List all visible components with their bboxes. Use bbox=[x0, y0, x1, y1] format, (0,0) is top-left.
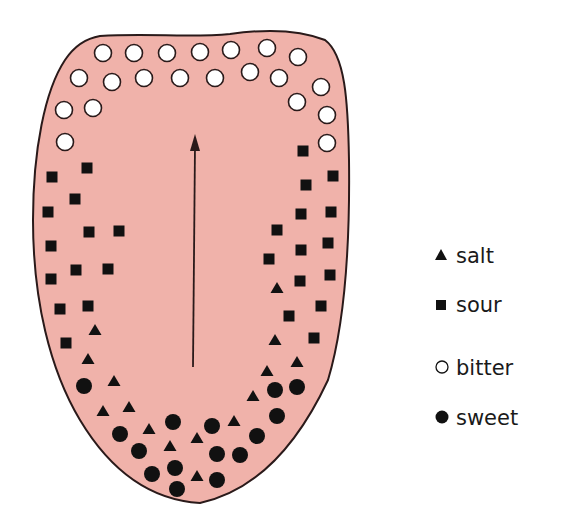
sweet-marker bbox=[76, 378, 92, 394]
legend-label-bitter: bitter bbox=[456, 356, 514, 380]
sour-marker bbox=[326, 207, 337, 218]
bitter-marker bbox=[271, 70, 288, 87]
sweet-marker bbox=[165, 414, 181, 430]
sour-marker bbox=[114, 226, 125, 237]
sour-marker bbox=[103, 264, 114, 275]
bitter-marker bbox=[57, 134, 74, 151]
bitter-marker bbox=[207, 70, 224, 87]
sour-marker bbox=[272, 225, 283, 236]
sour-marker bbox=[84, 227, 95, 238]
sour-marker bbox=[43, 207, 54, 218]
legend-item-sweet: sweet bbox=[436, 406, 519, 430]
sweet-marker bbox=[209, 446, 225, 462]
sour-marker bbox=[264, 254, 275, 265]
sour-marker bbox=[296, 245, 307, 256]
sweet-marker bbox=[204, 418, 220, 434]
sour-marker bbox=[47, 172, 58, 183]
sour-marker bbox=[298, 146, 309, 157]
bitter-marker bbox=[104, 74, 121, 91]
legend-item-salt: salt bbox=[435, 244, 494, 268]
sour-marker bbox=[46, 274, 57, 285]
sour-marker bbox=[296, 209, 307, 220]
legend-label-sweet: sweet bbox=[456, 406, 518, 430]
legend-item-sour: sour bbox=[436, 293, 502, 317]
bitter-marker bbox=[136, 70, 153, 87]
sweet-marker bbox=[112, 426, 128, 442]
sweet-marker bbox=[209, 472, 225, 488]
sweet-marker bbox=[131, 443, 147, 459]
bitter-marker bbox=[126, 45, 143, 62]
sour-marker bbox=[323, 238, 334, 249]
sour-marker bbox=[295, 276, 306, 287]
sweet-marker bbox=[144, 466, 160, 482]
bitter-marker bbox=[95, 45, 112, 62]
sweet-marker bbox=[267, 382, 283, 398]
bitter-marker bbox=[313, 79, 330, 96]
sour-marker bbox=[83, 301, 94, 312]
sour-marker bbox=[328, 171, 339, 182]
sweet-marker bbox=[232, 447, 248, 463]
bitter-marker bbox=[289, 94, 306, 111]
sour-square-icon bbox=[436, 300, 446, 310]
sour-marker bbox=[46, 241, 57, 252]
sour-marker bbox=[70, 194, 81, 205]
sweet-marker bbox=[167, 460, 183, 476]
sweet-marker bbox=[269, 408, 285, 424]
tongue-map-diagram: salt sour bitter sweet bbox=[0, 0, 563, 529]
bitter-marker bbox=[159, 45, 176, 62]
salt-triangle-icon bbox=[435, 249, 447, 260]
sour-marker bbox=[55, 304, 66, 315]
bitter-marker bbox=[319, 135, 336, 152]
sour-marker bbox=[82, 163, 93, 174]
legend-label-salt: salt bbox=[456, 244, 494, 268]
sweet-marker bbox=[169, 481, 185, 497]
legend: salt sour bitter sweet bbox=[435, 244, 518, 430]
sour-marker bbox=[309, 333, 320, 344]
sour-marker bbox=[316, 301, 327, 312]
bitter-marker bbox=[85, 100, 102, 117]
legend-item-bitter: bitter bbox=[436, 356, 514, 380]
sour-marker bbox=[301, 180, 312, 191]
sweet-marker bbox=[249, 428, 265, 444]
bitter-marker bbox=[290, 49, 307, 66]
sour-marker bbox=[284, 311, 295, 322]
bitter-marker bbox=[319, 107, 336, 124]
bitter-marker bbox=[192, 44, 209, 61]
sour-marker bbox=[325, 270, 336, 281]
bitter-marker bbox=[259, 40, 276, 57]
sweet-marker bbox=[289, 379, 305, 395]
bitter-marker bbox=[56, 102, 73, 119]
bitter-marker bbox=[172, 70, 189, 87]
sour-marker bbox=[71, 265, 82, 276]
bitter-marker bbox=[71, 70, 88, 87]
legend-label-sour: sour bbox=[456, 293, 502, 317]
sweet-filled-circle-icon bbox=[436, 411, 449, 424]
bitter-marker bbox=[223, 42, 240, 59]
sour-marker bbox=[61, 338, 72, 349]
bitter-open-circle-icon bbox=[436, 361, 448, 373]
bitter-marker bbox=[242, 64, 259, 81]
